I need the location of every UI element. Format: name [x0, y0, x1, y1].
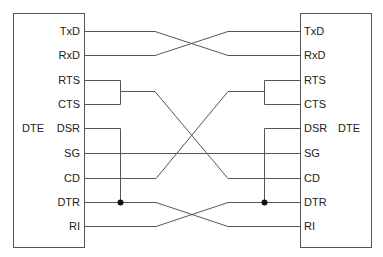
left-pin-rxd: RxD [30, 49, 80, 61]
left-pin-sg: SG [30, 147, 80, 159]
left-pin-cd: CD [30, 172, 80, 184]
left-device-label: DTE [22, 122, 44, 134]
left-pin-ri: RI [30, 220, 80, 232]
right-pin-rxd: RxD [304, 49, 325, 61]
right-pin-cd: CD [304, 172, 320, 184]
right-dsr-dtr-link [265, 129, 301, 203]
left-pin-cts: CTS [30, 98, 80, 110]
right-pin-txd: TxD [304, 25, 324, 37]
right-device-label: DTE [338, 122, 360, 134]
left-junction-dot [118, 200, 124, 206]
right-junction-dot [262, 200, 268, 206]
wire-rxd-txd [84, 32, 300, 56]
right-pin-rts: RTS [304, 74, 326, 86]
right-rts-cts-loop [265, 81, 301, 105]
right-pin-ri: RI [304, 220, 315, 232]
wire-ri-dtr [84, 203, 300, 227]
left-dsr-dtr-link [84, 129, 121, 203]
left-rts-cts-loop [84, 81, 121, 105]
left-pin-dtr: DTR [30, 196, 80, 208]
right-pin-sg: SG [304, 147, 320, 159]
right-pin-cts: CTS [304, 98, 326, 110]
right-pin-dtr: DTR [304, 196, 327, 208]
left-pin-txd: TxD [30, 25, 80, 37]
left-pin-rts: RTS [30, 74, 80, 86]
right-pin-dsr: DSR [304, 122, 327, 134]
